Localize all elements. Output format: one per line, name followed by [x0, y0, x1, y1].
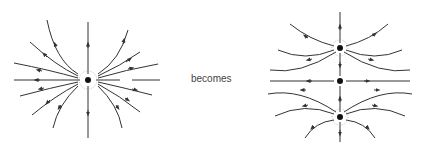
right-charge-top: [337, 45, 343, 51]
right-charge-middle: [337, 78, 343, 84]
right-figure: [268, 12, 412, 142]
left-charge: [85, 77, 91, 83]
right-charge-bottom: [337, 114, 343, 120]
becomes-caption: becomes: [191, 73, 232, 84]
